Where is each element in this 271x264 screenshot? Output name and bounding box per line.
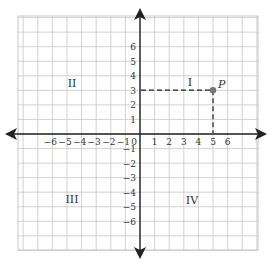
x-tick-label: 3 [181, 137, 187, 147]
x-tick-label: −3 [88, 137, 102, 147]
y-tick-label: 2 [130, 100, 136, 110]
x-tick-label: 2 [166, 137, 172, 147]
grid-lines [18, 16, 258, 250]
quadrant-i-label: I [188, 76, 192, 89]
y-tick-label: 3 [130, 86, 136, 96]
x-tick-label: 4 [196, 137, 202, 147]
x-tick-label: 5 [210, 137, 216, 147]
y-tick-label: 1 [130, 115, 136, 125]
x-tick-label: −2 [102, 137, 115, 147]
y-tick-label: 6 [130, 42, 136, 52]
x-tick-label: 6 [225, 137, 231, 147]
quadrant-ii-label: II [68, 77, 77, 90]
x-tick-labels: −6−5−4−3−2−1123456 [44, 137, 231, 147]
quadrant-iv-label: IV [186, 194, 199, 207]
quadrant-iii-label: III [65, 193, 78, 206]
y-tick-label: 4 [130, 71, 136, 81]
y-tick-label: −6 [123, 217, 137, 227]
point-p [210, 87, 217, 94]
point-p-label: P [217, 78, 226, 91]
coordinate-plane: P I II III IV 0 −6−5−4−3−2−1123456 65432… [0, 0, 271, 264]
y-tick-label: 5 [130, 57, 136, 67]
grid-border [18, 16, 258, 250]
y-tick-label: −5 [123, 202, 137, 212]
x-tick-label: −4 [73, 137, 87, 147]
x-tick-label: 1 [152, 137, 158, 147]
y-tick-label: −1 [123, 144, 136, 154]
y-tick-label: −3 [123, 173, 137, 183]
x-tick-label: −6 [44, 137, 58, 147]
y-tick-label: −2 [123, 159, 136, 169]
x-tick-label: −5 [58, 137, 72, 147]
y-tick-label: −4 [123, 188, 137, 198]
